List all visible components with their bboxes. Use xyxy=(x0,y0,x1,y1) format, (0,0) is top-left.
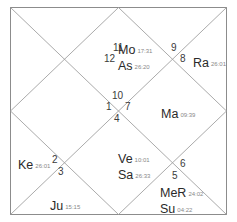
planet-mo: Mo17:31 xyxy=(118,41,152,57)
planet-degree: 09:39 xyxy=(180,112,195,118)
house-number-12: 12 xyxy=(104,54,115,64)
planet-degree: 17:31 xyxy=(137,48,152,54)
planet-degree: 26:20 xyxy=(135,64,150,70)
planet-su: Su04:22 xyxy=(160,200,192,216)
planet-degree: 26:01 xyxy=(211,61,226,67)
planet-name: Ju xyxy=(50,199,63,213)
house-number-9: 9 xyxy=(171,43,177,53)
planet-name: Mo xyxy=(118,43,135,57)
planet-name: Ra xyxy=(193,56,209,70)
planet-sa: Sa26:33 xyxy=(118,166,150,182)
planet-mer: MeR24:02 xyxy=(160,184,203,200)
house-number-7: 7 xyxy=(125,102,131,112)
planet-ra: Ra26:01 xyxy=(193,54,226,70)
planet-name: Ma xyxy=(161,107,178,121)
planet-degree: 04:22 xyxy=(177,207,192,213)
house-number-4: 4 xyxy=(114,114,120,124)
house-number-1: 1 xyxy=(106,102,112,112)
house-number-5: 5 xyxy=(172,171,178,181)
planet-degree: 10:01 xyxy=(135,157,150,163)
house-number-2: 2 xyxy=(52,155,58,165)
planet-ve: Ve10:01 xyxy=(118,150,150,166)
planet-degree: 24:02 xyxy=(188,191,203,197)
planet-name: Sa xyxy=(118,168,133,182)
house-number-3: 3 xyxy=(58,167,64,177)
planet-ma: Ma09:39 xyxy=(161,105,195,121)
planet-ke: Ke26:01 xyxy=(18,156,50,172)
house-number-6: 6 xyxy=(180,159,186,169)
planet-degree: 26:01 xyxy=(35,163,50,169)
planet-name: Su xyxy=(160,202,175,216)
planet-name: Ve xyxy=(118,152,133,166)
house-number-10: 10 xyxy=(112,91,123,101)
planet-name: MeR xyxy=(160,186,186,200)
planet-name: Ke xyxy=(18,158,33,172)
planet-name: As xyxy=(118,59,133,73)
planet-degree: 26:33 xyxy=(135,173,150,179)
planet-ju: Ju15:15 xyxy=(50,197,80,213)
north-indian-chart: 11 12 9 8 10 1 7 4 2 3 6 5 Mo17:31 As26:… xyxy=(0,0,237,222)
house-number-8: 8 xyxy=(180,54,186,64)
planet-degree: 15:15 xyxy=(65,204,80,210)
planet-as: As26:20 xyxy=(118,57,150,73)
